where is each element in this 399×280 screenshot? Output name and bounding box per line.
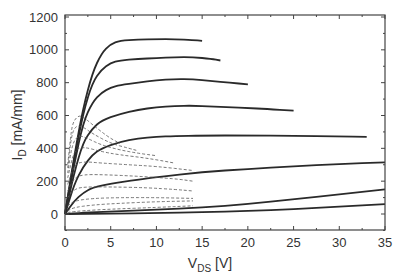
series-solid-7 — [65, 189, 385, 214]
series-solid-4 — [65, 106, 294, 214]
x-axis-title: VDS [V] — [188, 255, 232, 274]
y-tick-label: 1000 — [29, 42, 58, 57]
y-axis-title: ID [mA/mm] — [9, 89, 28, 160]
x-tick-label: 15 — [195, 235, 209, 250]
y-tick-label: 600 — [36, 108, 58, 123]
x-tick-label: 20 — [241, 235, 255, 250]
y-tick-label: 0 — [51, 207, 58, 222]
series-dashed-6 — [68, 175, 193, 191]
x-tick-label: 35 — [378, 235, 392, 250]
series-dashed-4 — [68, 148, 175, 178]
x-tick-label: 5 — [107, 235, 114, 250]
series-dashed-3 — [68, 136, 157, 173]
x-tick-label: 30 — [332, 235, 346, 250]
x-tick-label: 25 — [286, 235, 300, 250]
iv-characteristics-chart: 05101520253035 020040060080010001200 VDS… — [0, 0, 399, 280]
series-solid-3 — [65, 79, 248, 214]
plot-area — [65, 39, 385, 214]
x-tick-label: 0 — [61, 235, 68, 250]
series-dashed-7 — [68, 187, 193, 198]
x-tick-labels: 05101520253035 — [61, 235, 392, 250]
series-solid-1 — [65, 39, 202, 214]
y-tick-label: 200 — [36, 174, 58, 189]
y-tick-label: 800 — [36, 75, 58, 90]
y-tick-label: 400 — [36, 141, 58, 156]
y-tick-labels: 020040060080010001200 — [29, 10, 58, 222]
x-tick-label: 10 — [149, 235, 163, 250]
y-tick-label: 1200 — [29, 10, 58, 25]
